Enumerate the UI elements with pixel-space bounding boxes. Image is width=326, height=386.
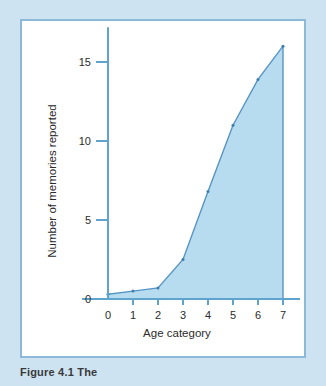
data-point [257,78,260,81]
figure-caption: Figure 4.1 The [20,366,310,386]
x-tick-label: 7 [280,309,286,321]
series-area [108,46,283,299]
x-tick-label: 1 [130,309,136,321]
y-tick-label: 0 [85,293,91,305]
data-point [132,290,135,293]
x-tick-label: 5 [230,309,236,321]
x-tick-label: 6 [255,309,261,321]
y-tick-label: 15 [79,56,91,68]
y-axis-tick-labels: 051015 [79,56,91,305]
figure-panel: 051015 01234567 Number of memories repor… [20,19,306,358]
x-tick-label: 3 [180,309,186,321]
data-point [232,124,235,127]
memories-by-age-area-chart: 051015 01234567 Number of memories repor… [22,21,304,356]
data-point [282,45,285,48]
data-point [207,190,210,193]
x-axis-title: Age category [143,327,211,339]
y-tick-label: 5 [85,214,91,226]
y-axis-title: Number of memories reported [46,104,58,257]
x-tick-label: 0 [105,309,111,321]
x-tick-label: 4 [205,309,211,321]
y-axis-ticks [96,62,108,299]
y-tick-label: 10 [79,135,91,147]
x-axis-tick-labels: 01234567 [105,309,286,321]
x-tick-label: 2 [155,309,161,321]
data-point [182,258,185,261]
data-point [157,286,160,289]
